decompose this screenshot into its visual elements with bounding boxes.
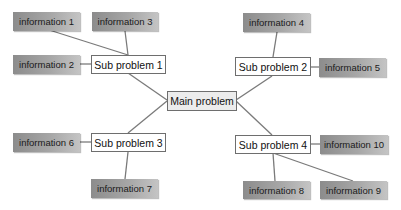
sub-problem-3-node: Sub problem 3: [91, 133, 166, 152]
main-problem-node: Main problem: [167, 91, 237, 111]
information-4-label: information 4: [249, 17, 304, 28]
information-3-label: information 3: [98, 16, 153, 27]
edge-sub1-info1: [46, 29, 128, 55]
information-6-node: information 6: [13, 133, 80, 152]
information-10-label: information 10: [324, 139, 384, 150]
edge-sub2-info4: [273, 32, 277, 57]
information-7-label: information 7: [97, 183, 152, 194]
sub-problem-2-node: Sub problem 2: [235, 57, 311, 76]
information-1-node: information 1: [13, 12, 80, 31]
edge-sub4-info9: [273, 153, 353, 181]
information-5-node: information 5: [319, 58, 386, 77]
information-8-node: information 8: [243, 181, 310, 199]
information-7-node: information 7: [91, 179, 158, 198]
information-9-node: information 9: [320, 181, 387, 199]
edge-sub1-info3: [125, 31, 128, 55]
information-6-label: information 6: [19, 137, 74, 148]
information-2-label: information 2: [19, 59, 74, 70]
sub-problem-4-node: Sub problem 4: [235, 135, 311, 154]
edge-sub4-info8: [273, 153, 275, 181]
information-1-label: information 1: [19, 16, 74, 27]
sub-problem-4-label: Sub problem 4: [239, 139, 307, 151]
information-2-node: information 2: [13, 55, 80, 74]
information-4-node: information 4: [243, 13, 310, 32]
sub-problem-1-label: Sub problem 1: [94, 59, 162, 71]
edge-main-sub1: [128, 73, 167, 100]
sub-problem-3-label: Sub problem 3: [94, 137, 162, 149]
information-8-label: information 8: [249, 185, 304, 196]
edge-sub3-info7: [125, 152, 128, 179]
edge-main-sub4: [236, 101, 272, 135]
information-5-label: information 5: [325, 62, 380, 73]
edge-main-sub3: [128, 101, 167, 133]
main-problem-label: Main problem: [170, 95, 234, 107]
information-10-node: information 10: [320, 135, 388, 154]
information-3-node: information 3: [92, 12, 158, 31]
sub-problem-1-node: Sub problem 1: [91, 55, 166, 74]
sub-problem-2-label: Sub problem 2: [239, 61, 307, 73]
information-9-label: information 9: [326, 185, 381, 196]
edge-main-sub2: [236, 76, 272, 100]
